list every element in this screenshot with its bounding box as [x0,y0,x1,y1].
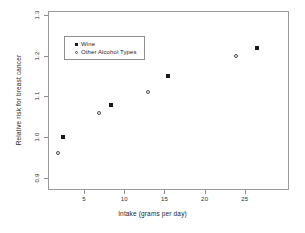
x-axis-tick [164,190,165,194]
y-axis-tick-label: 1.3 [34,11,40,20]
x-axis-tick [205,190,206,194]
y-axis-tick [44,137,48,138]
legend-item-wine: Wine [71,40,144,48]
y-axis-tick [44,15,48,16]
y-axis-tick-label: 1.2 [34,51,40,60]
y-axis-title: Relative risk for breast cancer [15,55,22,146]
open-circle-icon [71,51,81,54]
filled-square-icon [71,43,81,46]
y-axis-tick-label: 1.1 [34,92,40,101]
x-axis-tick [84,190,85,194]
legend-label-other-alcohol: Other Alcohol Types [81,49,137,55]
x-axis-tick-label: 10 [121,196,128,202]
y-axis-tick [44,178,48,179]
x-axis-tick [245,190,246,194]
legend-box: Wine Other Alcohol Types [64,36,145,60]
y-axis-tick [44,96,48,97]
y-axis-tick-label: 0.9 [34,173,40,182]
x-axis-tick-label: 15 [161,196,168,202]
x-axis-tick-label: 20 [201,196,208,202]
y-axis-tick-label: 1.0 [34,133,40,142]
y-axis-tick [44,56,48,57]
legend-label-wine: Wine [81,41,95,47]
x-axis-title: Intake (grams per day) [0,210,305,217]
x-axis-tick-label: 5 [82,196,86,202]
x-axis-tick-label: 25 [241,196,248,202]
scatter-plot-figure: 5101520250.91.01.11.21.3 Relative risk f… [0,0,305,233]
legend-item-other-alcohol: Other Alcohol Types [71,48,144,56]
x-axis-tick [124,190,125,194]
